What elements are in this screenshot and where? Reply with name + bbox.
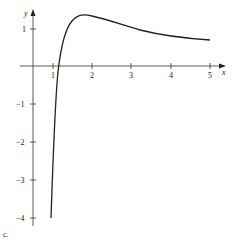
x-tick-label: 5	[208, 71, 212, 80]
x-tick-label: 1	[51, 71, 55, 80]
chart: 1 2 3 4 5 x 1 −1 −2 −3 −4 y c.	[0, 0, 242, 241]
y-tick-label: −3	[16, 176, 25, 185]
y-tick-label: −2	[16, 138, 25, 147]
y-tick-label: 1	[22, 25, 26, 34]
panel-label: c.	[3, 230, 9, 239]
y-axis-arrow-icon	[31, 9, 36, 16]
x-axis-label: x	[221, 68, 226, 77]
x-tick-label: 3	[129, 71, 133, 80]
function-curve	[51, 15, 210, 218]
x-tick-label: 2	[90, 71, 94, 80]
y-tick-label: −1	[16, 100, 25, 109]
x-tick-label: 4	[169, 71, 173, 80]
y-tick-label: −4	[16, 214, 25, 223]
y-axis-label: y	[23, 9, 28, 18]
